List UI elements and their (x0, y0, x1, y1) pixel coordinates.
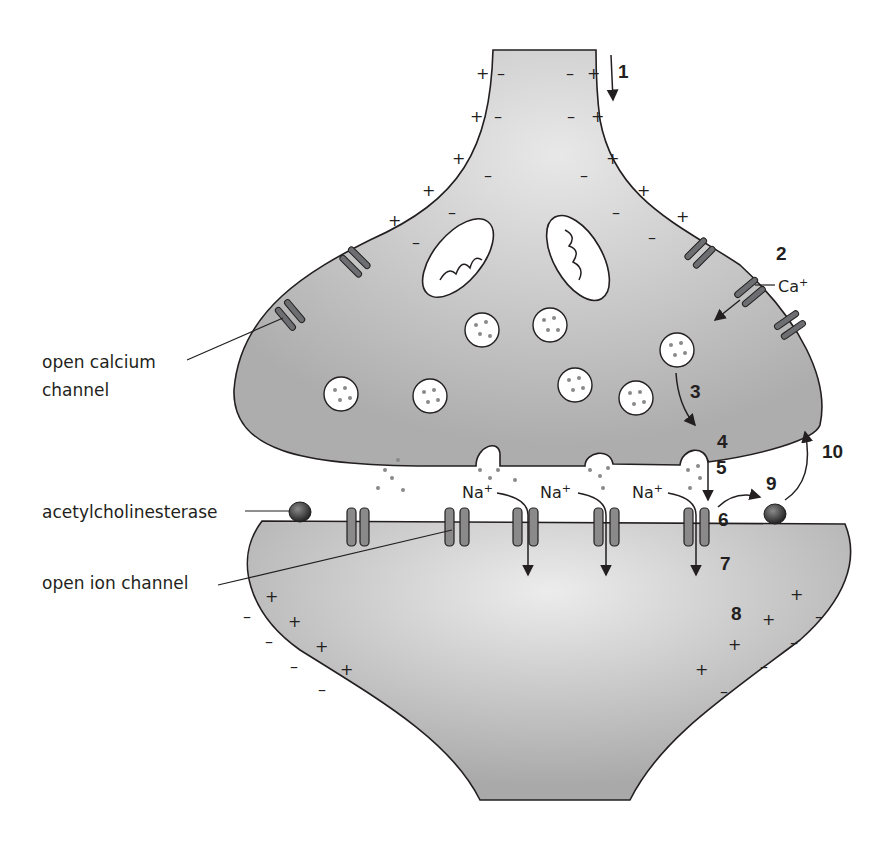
svg-text:–: – (448, 203, 456, 222)
svg-text:–: – (265, 632, 273, 651)
label-calcium-ion: Ca+ (778, 276, 808, 296)
step-1: 1 (618, 61, 629, 82)
svg-text:–: – (760, 657, 768, 676)
svg-text:–: – (567, 107, 575, 126)
svg-text:–: – (318, 680, 326, 699)
step-5: 5 (716, 457, 727, 478)
label-open-calcium-channel-1: open calcium (42, 352, 156, 372)
svg-text:+: + (695, 660, 708, 679)
svg-text:+: + (315, 637, 328, 656)
step-4: 4 (717, 431, 728, 452)
label-sodium-ion-1: Na+ (462, 482, 493, 502)
step-7: 7 (720, 553, 731, 574)
synapse-diagram: open calcium channel acetylcholinesteras… (0, 0, 890, 846)
svg-text:–: – (566, 64, 574, 83)
svg-text:+: + (790, 585, 803, 604)
label-acetylcholinesterase: acetylcholinesterase (42, 502, 218, 522)
svg-text:+: + (587, 64, 600, 83)
svg-text:+: + (762, 610, 775, 629)
svg-text:+: + (728, 635, 741, 654)
svg-text:+: + (452, 149, 465, 168)
step-3: 3 (690, 381, 701, 402)
step-10: 10 (822, 441, 843, 462)
label-open-ion-channel: open ion channel (42, 573, 188, 593)
label-sodium-ion-3: Na+ (632, 482, 663, 502)
svg-text:+: + (591, 107, 604, 126)
svg-text:–: – (720, 682, 728, 701)
step-6: 6 (718, 509, 729, 530)
label-sodium-ion-2: Na+ (540, 482, 571, 502)
svg-text:–: – (612, 203, 620, 222)
acetylcholinesterase-molecule-left (289, 502, 311, 522)
label-open-calcium-channel-2: channel (42, 380, 109, 400)
svg-text:–: – (580, 166, 588, 185)
step-9: 9 (766, 473, 777, 494)
step-2: 2 (776, 243, 787, 264)
svg-text:–: – (484, 166, 492, 185)
presynaptic-terminal (234, 50, 822, 466)
svg-text:+: + (606, 149, 619, 168)
svg-text:+: + (422, 181, 435, 200)
svg-text:+: + (265, 587, 278, 606)
svg-text:+: + (676, 207, 689, 226)
svg-text:–: – (497, 64, 505, 83)
svg-text:+: + (288, 612, 301, 631)
svg-text:+: + (470, 107, 483, 126)
svg-text:+: + (388, 211, 401, 230)
svg-text:–: – (648, 228, 656, 247)
acetylcholinesterase-molecule-right (764, 504, 786, 524)
svg-text:–: – (243, 607, 251, 626)
svg-text:+: + (340, 660, 353, 679)
svg-text:–: – (790, 633, 798, 652)
svg-text:+: + (476, 64, 489, 83)
step-8: 8 (731, 603, 742, 624)
svg-text:+: + (637, 181, 650, 200)
svg-text:–: – (494, 107, 502, 126)
svg-text:–: – (815, 607, 823, 626)
svg-text:–: – (412, 233, 420, 252)
svg-text:–: – (290, 657, 298, 676)
